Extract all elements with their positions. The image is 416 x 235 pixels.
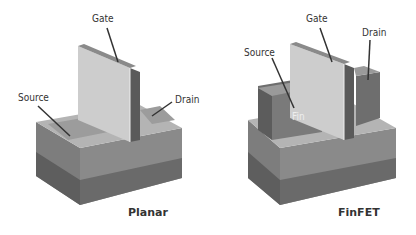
finfet-transistor: Gate Source Drain Fin FinFET — [244, 13, 396, 219]
planar-drain-label: Drain — [175, 94, 199, 105]
planar-gate-label: Gate — [92, 13, 114, 24]
finfet-source-label: Source — [244, 47, 275, 58]
finfet-drain-label: Drain — [362, 27, 386, 38]
planar-transistor: Gate Source Drain Planar — [18, 13, 199, 219]
planar-caption: Planar — [128, 206, 169, 219]
planar-gate-side — [130, 68, 140, 142]
finfet-fin-label: Fin — [292, 111, 305, 122]
transistor-diagram: Gate Source Drain Planar Gate Sourc — [0, 0, 416, 235]
planar-source-label: Source — [18, 92, 49, 103]
finfet-gate-side — [344, 64, 354, 140]
finfet-drain-fin — [356, 72, 380, 126]
finfet-caption: FinFET — [338, 206, 380, 219]
finfet-gate-label: Gate — [306, 13, 328, 24]
